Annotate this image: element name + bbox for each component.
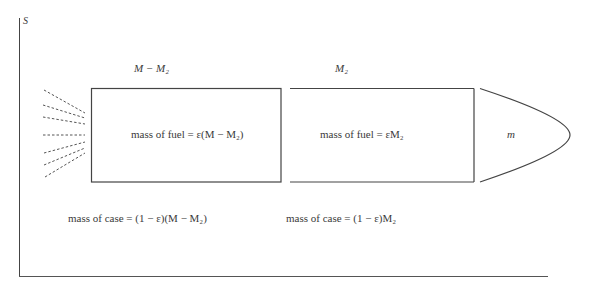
- stage2-case-label: mass of case = (1 − ε)M₂: [286, 212, 396, 224]
- rocket-diagram: [0, 0, 589, 287]
- stage2-mass-label: M₂: [335, 62, 348, 74]
- axis-label: S: [23, 15, 28, 26]
- stage1-mass-label: M − M₂: [134, 62, 169, 74]
- stage2-fuel-label: mass of fuel = εM₂: [320, 128, 404, 140]
- stage1-fuel-label: mass of fuel = ε(M − M₂): [131, 128, 244, 140]
- exhaust-lines: [43, 90, 85, 177]
- payload-label: m: [507, 128, 515, 140]
- nose-cone: [480, 89, 570, 183]
- stage1-case-label: mass of case = (1 − ε)(M − M₂): [68, 212, 207, 224]
